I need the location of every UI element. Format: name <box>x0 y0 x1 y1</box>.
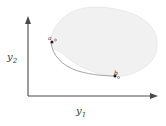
x-axis-label-subscript: 1 <box>82 111 86 119</box>
point-b-label: b <box>114 69 118 76</box>
y-axis-label: y2 <box>7 51 17 65</box>
point-a-label: a <box>48 34 52 41</box>
x-axis-label: y1 <box>76 105 86 119</box>
y-axis-arrow-icon <box>25 16 31 24</box>
point-marker-b-halo <box>118 77 120 79</box>
x-axis-arrow-icon <box>150 93 158 99</box>
y-axis-label-subscript: 2 <box>13 57 17 65</box>
